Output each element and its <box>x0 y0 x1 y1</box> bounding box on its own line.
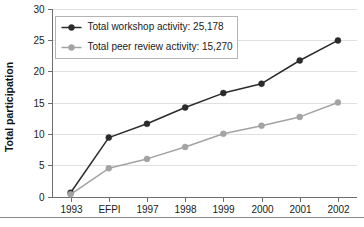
legend-label: Total workshop activity: 25,178 <box>88 21 225 32</box>
x-tick-label: 1993 <box>60 204 83 215</box>
data-point <box>144 121 150 127</box>
x-tick-label: 2000 <box>251 204 274 215</box>
data-point <box>259 123 265 129</box>
y-tick-label: 25 <box>33 35 45 46</box>
x-tick-label: 2001 <box>289 204 312 215</box>
data-point <box>335 100 341 106</box>
legend-label: Total peer review activity: 15,270 <box>88 41 234 52</box>
data-point <box>220 131 226 137</box>
y-tick-label: 30 <box>33 4 45 15</box>
chart-canvas: 051015202530 1993EFPI1997199819992000200… <box>0 0 364 227</box>
y-axis-title: Total participation <box>3 62 15 152</box>
x-axis: 1993EFPI199719981999200020012002 <box>52 198 358 215</box>
data-point <box>335 37 341 43</box>
y-tick-label: 0 <box>39 192 45 203</box>
data-point <box>182 105 188 111</box>
legend-swatch-marker <box>69 45 75 51</box>
chart-legend: Total workshop activity: 25,178Total pee… <box>56 17 238 59</box>
x-tick-label: 1998 <box>174 204 197 215</box>
y-tick-label: 5 <box>39 160 45 171</box>
data-point <box>259 81 265 87</box>
x-tick-label: 2002 <box>327 204 350 215</box>
series-peer-review <box>68 100 341 198</box>
y-tick-label: 10 <box>33 129 45 140</box>
x-tick-label: 1999 <box>212 204 235 215</box>
data-point <box>106 165 112 171</box>
data-point <box>68 191 74 197</box>
x-tick-label: EFPI <box>98 204 120 215</box>
y-tick-label: 15 <box>33 98 45 109</box>
data-point <box>106 135 112 141</box>
footer-divider <box>0 217 364 218</box>
y-axis-title-group: Total participation <box>3 62 15 152</box>
data-point <box>144 156 150 162</box>
data-series-layer <box>68 37 341 197</box>
data-point <box>297 58 303 64</box>
data-point <box>297 114 303 120</box>
data-point <box>182 144 188 150</box>
y-axis: 051015202530 <box>33 4 52 203</box>
y-tick-label: 20 <box>33 66 45 77</box>
line-chart-figure: 051015202530 1993EFPI1997199819992000200… <box>0 0 364 227</box>
legend-item: Total peer review activity: 15,270 <box>62 41 234 52</box>
legend-swatch-marker <box>69 25 75 31</box>
x-tick-label: 1997 <box>136 204 159 215</box>
data-point <box>220 90 226 96</box>
